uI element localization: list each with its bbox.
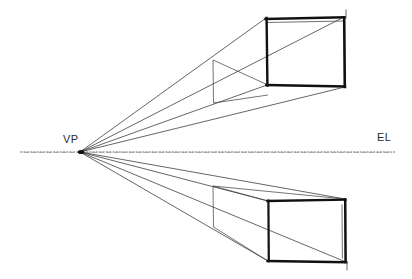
ray-upper-bottom-left bbox=[80, 85, 267, 152]
vanishing-point-label: VP bbox=[63, 134, 78, 145]
lower-box-back-bottom-edge bbox=[214, 227, 269, 261]
upper-box-front-right-edge bbox=[344, 17, 345, 87]
lower-box-front-bottom-edge bbox=[268, 261, 347, 262]
vanishing-point-marker bbox=[78, 150, 84, 154]
drawing-canvas: VP EL bbox=[0, 0, 412, 279]
lower-box-back-left-edge bbox=[213, 186, 214, 227]
eye-level-label: EL bbox=[377, 132, 391, 143]
lower-box-front-top-edge bbox=[268, 200, 346, 201]
upper-box-back-left-edge bbox=[213, 60, 214, 103]
upper-box-back-bottom-edge bbox=[214, 95, 269, 103]
ray-upper-top-right bbox=[80, 17, 344, 152]
vanishing-point-dot bbox=[78, 150, 84, 154]
upper-box-front-top-edge-ghost bbox=[267, 21, 344, 23]
lower-box-back-upper-rail bbox=[213, 186, 345, 199]
upper-box-front-bottom-edge bbox=[266, 85, 345, 87]
ray-upper-bottom-right bbox=[80, 87, 345, 152]
convergence-rays bbox=[80, 17, 346, 262]
ray-upper-top-left bbox=[80, 18, 266, 152]
perspective-drawing bbox=[0, 0, 412, 279]
lower-box-back-top-edge bbox=[213, 186, 268, 201]
upper-box-back-face bbox=[213, 60, 268, 103]
ray-lower-top-right bbox=[80, 152, 345, 199]
upper-box-front-face bbox=[266, 10, 347, 87]
upper-box-front-top-edge bbox=[266, 17, 345, 19]
lower-box-back-face bbox=[213, 186, 345, 261]
upper-box-front-left-edge bbox=[267, 18, 268, 86]
upper-box-back-top-edge bbox=[213, 60, 268, 85]
